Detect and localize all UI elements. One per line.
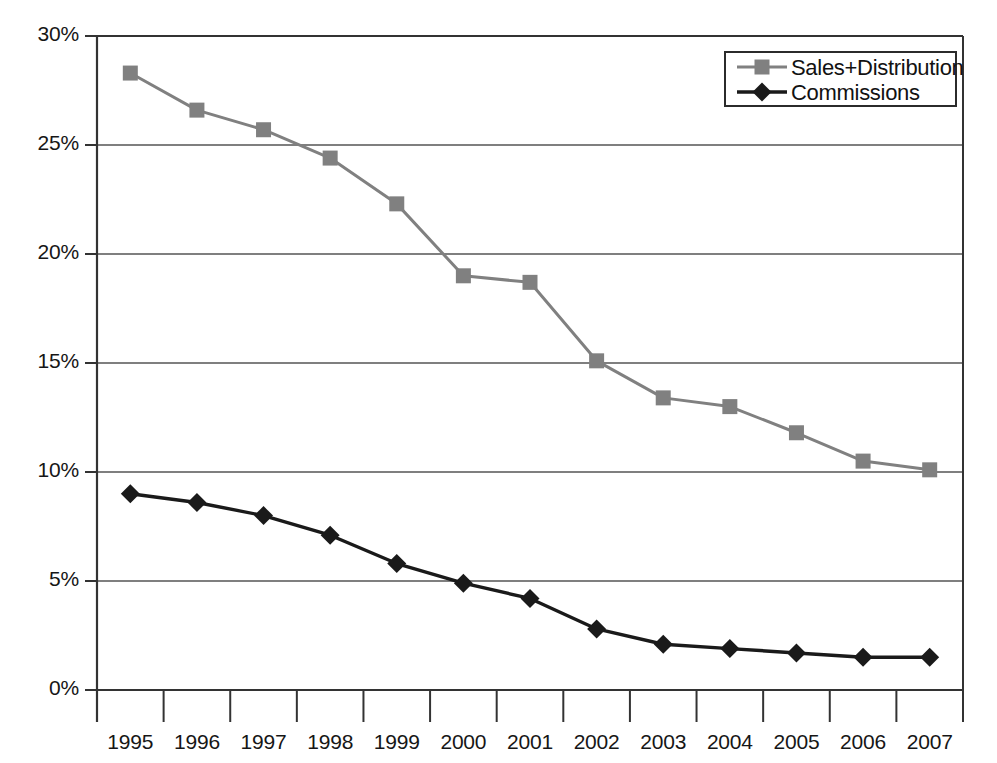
data-point-marker [523, 275, 538, 290]
data-point-marker [589, 353, 604, 368]
y-axis-tick-label: 25% [38, 131, 79, 155]
chart-plot-area: Sales+DistributionCommissions [0, 0, 997, 763]
x-axis-tick-label: 2004 [697, 730, 764, 754]
x-axis-tick-label: 2001 [497, 730, 564, 754]
series-commissions [121, 484, 939, 667]
series-line [130, 73, 929, 470]
data-point-marker [922, 462, 937, 477]
x-axis-tick-label: 1999 [363, 730, 430, 754]
data-series-layer [121, 66, 939, 667]
chart-legend: Sales+DistributionCommissions [725, 52, 964, 106]
data-point-marker [454, 574, 473, 593]
series-line [130, 494, 929, 658]
data-point-marker [654, 635, 673, 654]
x-axis-tick-label: 2007 [896, 730, 963, 754]
data-point-marker [254, 506, 273, 525]
series-sales-distribution [123, 66, 937, 478]
x-axis-tick-label: 2005 [763, 730, 830, 754]
data-point-marker [720, 639, 739, 658]
data-point-marker [389, 196, 404, 211]
data-point-marker [521, 589, 540, 608]
data-point-marker [387, 554, 406, 573]
data-point-marker [856, 454, 871, 469]
data-point-marker [787, 643, 806, 662]
data-point-marker [456, 268, 471, 283]
y-axis-tick-label: 10% [38, 458, 79, 482]
data-point-marker [323, 151, 338, 166]
data-point-marker [189, 103, 204, 118]
y-axis-ticks [85, 36, 97, 690]
data-point-marker [789, 425, 804, 440]
x-axis-tick-label: 1996 [164, 730, 231, 754]
data-point-marker [587, 619, 606, 638]
data-point-marker [321, 526, 340, 545]
y-axis-tick-label: 0% [49, 676, 79, 700]
data-point-marker [256, 122, 271, 137]
x-axis-tick-label: 1995 [97, 730, 164, 754]
x-axis-tick-label: 2000 [430, 730, 497, 754]
data-point-marker [121, 484, 140, 503]
x-axis-tick-label: 2006 [830, 730, 897, 754]
axis-lines [97, 36, 963, 722]
y-axis-tick-label: 30% [38, 22, 79, 46]
data-point-marker [123, 66, 138, 81]
data-point-marker [656, 390, 671, 405]
legend-label: Commissions [791, 80, 920, 105]
y-axis-tick-label: 20% [38, 240, 79, 264]
y-axis-tick-label: 5% [49, 567, 79, 591]
x-axis-tick-label: 1997 [230, 730, 297, 754]
chart-container: Sales+DistributionCommissions 30%25%20%1… [0, 0, 997, 763]
data-point-marker [854, 648, 873, 667]
legend-swatch-marker [755, 60, 770, 75]
x-axis-tick-label: 2002 [563, 730, 630, 754]
y-axis-tick-label: 15% [38, 349, 79, 373]
x-axis-tick-label: 2003 [630, 730, 697, 754]
data-point-marker [187, 493, 206, 512]
data-point-marker [920, 648, 939, 667]
legend-label: Sales+Distribution [791, 55, 964, 80]
x-axis-ticks [97, 690, 963, 722]
x-axis-tick-label: 1998 [297, 730, 364, 754]
data-point-marker [722, 399, 737, 414]
